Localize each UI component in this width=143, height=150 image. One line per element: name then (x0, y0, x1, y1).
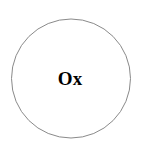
node-label: Ox (58, 68, 83, 89)
diagram-canvas: Ox (0, 0, 143, 150)
